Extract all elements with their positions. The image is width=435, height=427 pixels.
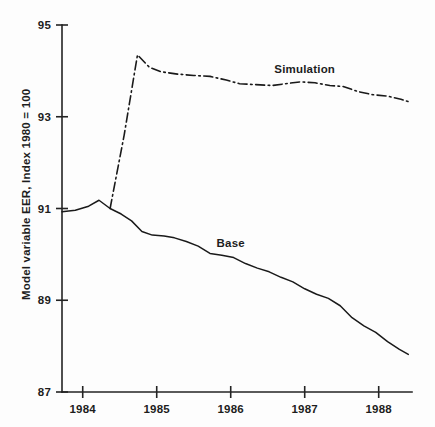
y-tick-label: 89 bbox=[38, 294, 51, 306]
series-annotations: BaseSimulation bbox=[217, 63, 336, 249]
y-axis-title: Model variable EER, Index 1980 = 100 bbox=[20, 89, 32, 300]
axes: 878991939519841985198619871988 bbox=[38, 19, 412, 415]
series-group bbox=[62, 55, 408, 355]
y-tick-label: 87 bbox=[38, 386, 51, 398]
x-tick-label: 1985 bbox=[144, 403, 171, 415]
chart-container: Model variable EER, Index 1980 = 100 878… bbox=[0, 0, 435, 427]
y-axis-title-group: Model variable EER, Index 1980 = 100 bbox=[20, 89, 32, 300]
y-tick-label: 91 bbox=[38, 203, 52, 215]
x-tick-label: 1988 bbox=[366, 403, 393, 415]
series-label-simulation: Simulation bbox=[274, 63, 335, 75]
series-label-base: Base bbox=[217, 237, 245, 249]
y-tick-label: 95 bbox=[38, 19, 52, 31]
series-line-base bbox=[62, 200, 408, 354]
x-tick-label: 1984 bbox=[70, 403, 97, 415]
y-tick-label: 93 bbox=[38, 111, 51, 123]
x-tick-label: 1986 bbox=[218, 403, 244, 415]
x-tick-label: 1987 bbox=[292, 403, 318, 415]
series-line-simulation bbox=[110, 55, 408, 209]
line-chart: Model variable EER, Index 1980 = 100 878… bbox=[0, 0, 435, 427]
